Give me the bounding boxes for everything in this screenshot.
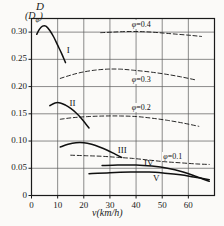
grid-lines — [32, 19, 215, 196]
y-tick-label: 0 — [1, 190, 27, 200]
y-axis-paren-open: (D — [25, 10, 36, 21]
y-tick-label: 0.25 — [1, 53, 27, 63]
phi-annotation: φ=0.3 — [131, 75, 152, 84]
curve-III — [60, 142, 121, 157]
curve-roman-label: I — [67, 45, 70, 55]
chart-plot-area — [0, 0, 224, 226]
curve-V — [89, 172, 209, 180]
y-axis-paren-close: ) — [39, 10, 42, 21]
plot-frame — [32, 19, 215, 196]
y-tick-label: 0.30 — [1, 26, 27, 36]
x-tick-label: 40 — [129, 200, 143, 210]
y-tick-label: 0.05 — [1, 162, 27, 172]
x-tick-label: 0 — [25, 200, 39, 210]
y-tick-label: 0.10 — [1, 135, 27, 145]
curve-phi-0-3 — [60, 69, 196, 80]
curve-I — [37, 26, 66, 63]
y-axis-label-bottom: (Dφ) — [25, 10, 43, 24]
curve-roman-label: III — [118, 145, 127, 155]
phi-annotation: φ=0.1 — [162, 152, 183, 161]
curve-roman-label: V — [153, 173, 160, 183]
x-tick-label: 20 — [77, 200, 91, 210]
y-tick-label: 0.20 — [1, 81, 27, 91]
y-tick-label: 0.15 — [1, 108, 27, 118]
phi-annotation: φ=0.4 — [131, 20, 152, 29]
x-tick-label: 30 — [103, 200, 117, 210]
x-tick-label: 60 — [181, 200, 195, 210]
x-tick-label: 10 — [51, 200, 65, 210]
curve-roman-label: IV — [144, 158, 154, 168]
phi-annotation: φ=0.2 — [131, 103, 152, 112]
chart-figure: D (Dφ) v(km/h) 00.050.100.150.200.250.30… — [0, 0, 224, 226]
data-curves — [37, 26, 210, 182]
x-tick-label: 50 — [155, 200, 169, 210]
curve-roman-label: II — [69, 98, 75, 108]
